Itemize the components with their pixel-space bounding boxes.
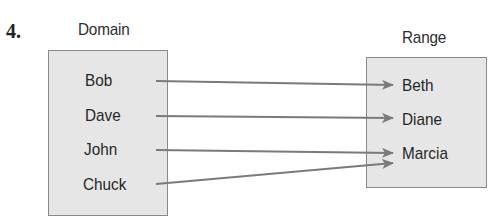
arrow-bob-to-beth — [156, 81, 393, 85]
arrow-john-to-marcia — [156, 150, 393, 153]
arrow-chuck-to-marcia — [156, 163, 393, 184]
mapping-arrows — [0, 0, 494, 221]
arrow-dave-to-diane — [156, 116, 393, 118]
